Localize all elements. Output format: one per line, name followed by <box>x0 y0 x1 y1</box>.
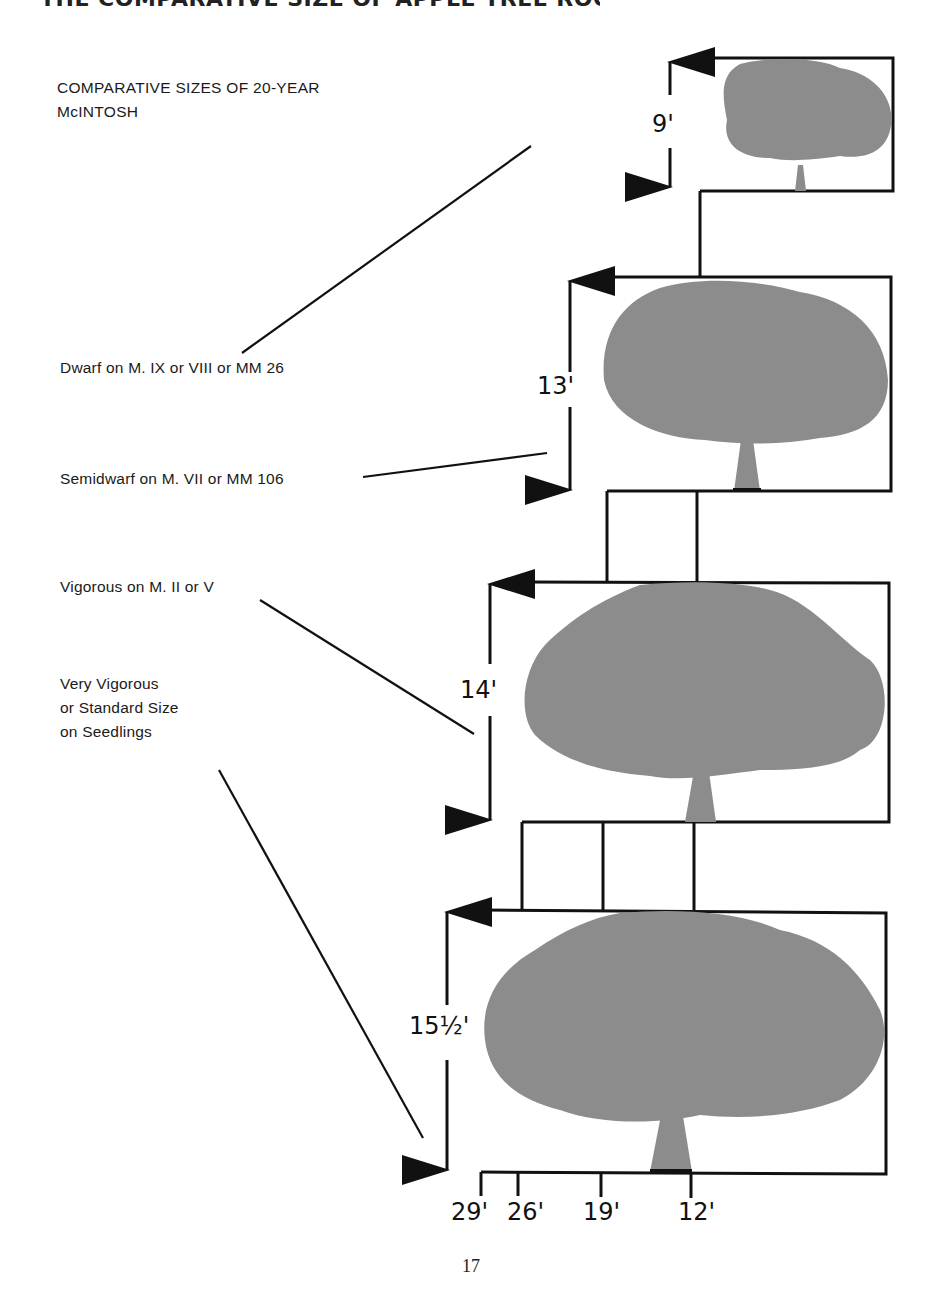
leader-semidwarf <box>363 453 547 477</box>
height-label-very-vigorous: 15½' <box>409 1014 469 1038</box>
spread-label-19: 19' <box>583 1198 620 1226</box>
spread-label-26: 26' <box>507 1198 544 1226</box>
height-label-dwarf: 9' <box>652 112 674 136</box>
leader-dwarf <box>242 146 531 353</box>
spread-label-12: 12' <box>678 1198 715 1226</box>
page-number: 17 <box>462 1256 480 1277</box>
leader-very-vigorous <box>219 770 423 1138</box>
tree-very-vigorous-icon <box>484 911 884 1172</box>
height-label-semidwarf: 13' <box>537 374 574 398</box>
spread-label-29: 29' <box>451 1198 488 1226</box>
tree-dwarf-icon <box>724 59 892 191</box>
tree-size-diagram <box>0 0 946 1315</box>
leader-vigorous <box>260 600 474 734</box>
tree-semidwarf-icon <box>604 281 888 491</box>
tree-vigorous-icon <box>525 582 885 822</box>
height-label-vigorous: 14' <box>460 678 497 702</box>
